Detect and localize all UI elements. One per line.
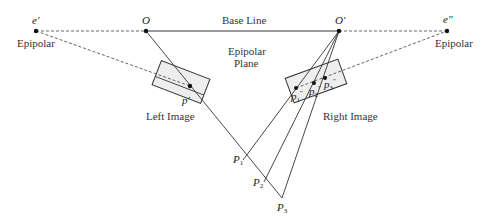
epipolar-diagram: e′ O O′ e″ p′ p1″ p2″ p3″ P1 P2 P3 Base … [0, 0, 487, 219]
label-pprime: p′ [181, 94, 191, 106]
label-P1: P1 [232, 153, 244, 167]
label-O: O [142, 14, 150, 26]
point-Oprime [337, 29, 341, 33]
left-image-plane [152, 61, 210, 104]
point-pprime [188, 84, 192, 88]
label-P2: P2 [252, 176, 264, 190]
epipolar-left-label: Epipolar [17, 37, 55, 49]
label-eprime: e′ [32, 14, 40, 26]
label-Oprime: O′ [335, 14, 346, 26]
left-image-label: Left Image [146, 110, 195, 122]
base-line-label: Base Line [222, 14, 266, 26]
epipolar-plane-label-1: Epipolar [228, 45, 266, 57]
epipolar-right-label: Epipolar [435, 37, 473, 49]
label-P3: P3 [276, 201, 288, 215]
label-edoubleprime: e″ [443, 13, 453, 25]
point-eprime [34, 29, 38, 33]
point-edoubleprime [445, 29, 449, 33]
epipolar-plane-label-2: Plane [234, 57, 259, 69]
right-image-label: Right Image [323, 110, 378, 122]
point-O [144, 29, 148, 33]
ray-Oprime-P2 [264, 31, 339, 182]
